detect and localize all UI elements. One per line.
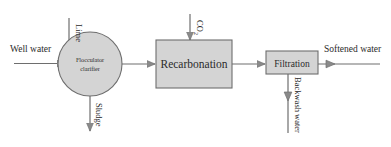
stream-label-sludge: Sludge xyxy=(94,103,104,127)
stream-label-carbon-dioxide: CO xyxy=(195,20,205,32)
stream-line-backwash-water xyxy=(284,74,292,133)
unit-label-flocculator-clarifier-line1: Flocculator xyxy=(76,56,104,63)
stream-label-lime: Lime xyxy=(74,24,84,42)
unit-label-filtration: Filtration xyxy=(274,59,310,69)
stream-label-softened-water: Softened water xyxy=(324,44,382,54)
stream-label-well-water: Well water xyxy=(10,44,52,54)
unit-label-recarbonation: Recarbonation xyxy=(160,58,227,70)
unit-flocculator-clarifier xyxy=(58,32,122,96)
unit-label-flocculator-clarifier-line2: clarifier xyxy=(80,65,100,72)
stream-label-carbon-dioxide-subscript: 2 xyxy=(193,32,199,35)
stream-label-backwash-water: Backwash water xyxy=(293,77,303,133)
process-flow-diagram: Flocculator clarifier Recarbonation Filt… xyxy=(0,0,391,147)
stream-line-softened-water xyxy=(318,60,380,68)
